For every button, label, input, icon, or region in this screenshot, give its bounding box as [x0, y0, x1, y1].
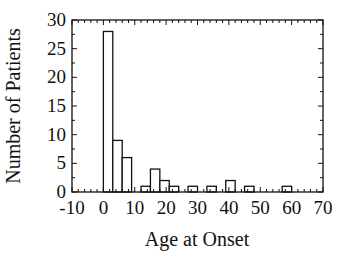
- histogram-bar: [113, 140, 122, 192]
- histogram-bar: [141, 186, 150, 192]
- y-axis-title: Number of Patients: [2, 28, 24, 184]
- x-tick-label: 10: [125, 197, 144, 218]
- x-tick-label: 50: [251, 197, 270, 218]
- histogram-chart: 051015202530 -10010203040506070 Age at O…: [0, 0, 343, 256]
- histogram-bar: [169, 186, 178, 192]
- y-tick-label: 5: [57, 152, 67, 173]
- histogram-bar: [150, 169, 159, 192]
- x-tick-label: 70: [314, 197, 333, 218]
- histogram-bar: [207, 186, 216, 192]
- histogram-bar: [122, 158, 131, 192]
- y-tick-label: 20: [47, 66, 66, 87]
- x-tick-label: 0: [99, 197, 109, 218]
- histogram-bar: [226, 181, 235, 192]
- x-tick-label: 60: [282, 197, 301, 218]
- bars: [103, 31, 291, 192]
- x-tick-label: 30: [188, 197, 207, 218]
- histogram-bar: [103, 31, 112, 192]
- y-tick-label: 30: [47, 9, 66, 30]
- y-tick-label: 25: [47, 38, 66, 59]
- histogram-bar: [188, 186, 197, 192]
- x-tick-label: -10: [59, 197, 84, 218]
- x-axis-title: Age at Onset: [145, 228, 250, 251]
- histogram-bar: [160, 181, 169, 192]
- y-axis-tick-labels: 051015202530: [47, 9, 66, 202]
- x-axis-tick-labels: -10010203040506070: [59, 197, 332, 218]
- histogram-bar: [282, 186, 291, 192]
- y-tick-label: 15: [47, 95, 66, 116]
- x-tick-label: 40: [219, 197, 238, 218]
- histogram-bar: [245, 186, 254, 192]
- y-tick-label: 10: [47, 124, 66, 145]
- x-tick-label: 20: [157, 197, 176, 218]
